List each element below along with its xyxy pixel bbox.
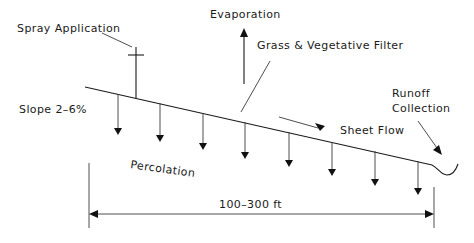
- spray-application-label: Spray Application: [17, 22, 121, 35]
- sheet-flow-arrow-shaft: [279, 117, 318, 128]
- percolation-arrows: [114, 94, 422, 195]
- percolation-arrowhead-icon: [371, 179, 379, 186]
- percolation-arrowhead-icon: [328, 169, 336, 176]
- runoff-collection-channel: [432, 164, 458, 175]
- percolation-arrowhead-icon: [156, 135, 164, 142]
- grass-filter-label: Grass & Vegetative Filter: [257, 39, 404, 52]
- percolation-arrowhead-icon: [285, 160, 293, 167]
- percolation-arrowhead-icon: [199, 143, 207, 150]
- distance-label: 100–300 ft: [219, 198, 282, 211]
- evaporation-label: Evaporation: [210, 8, 281, 21]
- percolation-arrowhead-icon: [114, 128, 122, 135]
- percolation-arrowhead-icon: [414, 188, 422, 195]
- dimension-left-arrowhead-icon: [89, 210, 98, 218]
- runoff-label-line1: Runoff: [392, 87, 431, 100]
- sheet-flow-arrowhead-icon: [315, 123, 325, 131]
- spray-leader-line: [102, 33, 132, 47]
- runoff-label-line2: Collection: [392, 102, 450, 115]
- runoff-arrow-shaft: [418, 121, 437, 148]
- overland-flow-diagram: Spray Application Evaporation Grass & Ve…: [0, 0, 474, 243]
- sheet-flow-label: Sheet Flow: [340, 124, 404, 137]
- grass-leader-line: [241, 61, 270, 112]
- percolation-arrowhead-icon: [241, 152, 249, 159]
- dimension-right-arrowhead-icon: [425, 210, 434, 218]
- runoff-arrowhead-icon: [433, 145, 442, 155]
- slope-label: Slope 2–6%: [19, 103, 87, 116]
- evaporation-arrowhead-icon: [240, 28, 248, 37]
- percolation-label: Percolation: [130, 158, 197, 180]
